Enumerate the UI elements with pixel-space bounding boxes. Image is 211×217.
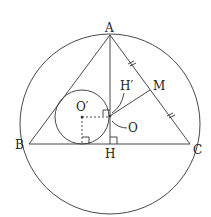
label-o-prime: O′ bbox=[76, 100, 89, 114]
label-c: C bbox=[193, 143, 202, 157]
label-a: A bbox=[104, 21, 114, 35]
arrow-h-prime bbox=[112, 93, 124, 113]
label-o: O bbox=[128, 121, 138, 135]
arrow-o bbox=[112, 121, 127, 128]
label-h-prime: H′ bbox=[120, 79, 133, 93]
label-m: M bbox=[153, 79, 165, 93]
point-o bbox=[109, 115, 112, 118]
geometry-diagram: A B C H M O O′ H′ bbox=[0, 0, 211, 217]
right-angle-h bbox=[110, 137, 117, 144]
point-o-prime bbox=[81, 116, 84, 119]
triangle-abc bbox=[29, 35, 190, 144]
segment-om bbox=[110, 90, 150, 116]
label-h: H bbox=[105, 147, 115, 161]
label-b: B bbox=[15, 138, 24, 152]
